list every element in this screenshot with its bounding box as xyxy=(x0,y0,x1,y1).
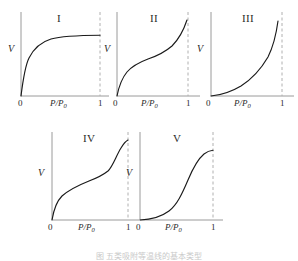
isotherm-curve-III xyxy=(211,21,278,96)
x-axis-label-III: P/P0 xyxy=(234,99,251,108)
x-axis-label-IV-sub: 0 xyxy=(92,226,95,233)
x-axis-label-IV: P/P0 xyxy=(78,223,95,232)
x-axis-label-II: P/P0 xyxy=(141,99,158,108)
x-axis-label-II-sub: 0 xyxy=(155,102,158,109)
panel-label-V: V xyxy=(173,133,181,144)
y-axis-label-IV: V xyxy=(38,168,44,178)
isotherm-curve-IV xyxy=(52,140,128,220)
x-tick-one-III: 1 xyxy=(280,99,285,108)
x-tick-zero-II: 0 xyxy=(113,99,118,108)
x-axis-label-II-main: P/P xyxy=(141,98,155,108)
isotherm-curve-II xyxy=(117,20,187,96)
y-axis-label-III: V xyxy=(197,44,203,54)
x-axis-label-V: P/P0 xyxy=(165,223,182,232)
x-tick-one-I: 1 xyxy=(98,99,103,108)
x-axis-label-I: P/P0 xyxy=(50,99,67,108)
x-tick-one-V: 1 xyxy=(211,223,216,232)
x-axis-label-I-main: P/P xyxy=(50,98,64,108)
isotherm-curve-V xyxy=(140,150,213,220)
y-axis-label-II: V xyxy=(104,44,110,54)
x-axis-label-III-main: P/P xyxy=(234,98,248,108)
x-axis-label-IV-main: P/P xyxy=(78,222,92,232)
x-axis-label-I-sub: 0 xyxy=(64,102,67,109)
x-tick-one-II: 1 xyxy=(186,99,191,108)
x-tick-zero-V: 0 xyxy=(136,223,141,232)
x-axis-label-V-main: P/P xyxy=(165,222,179,232)
x-tick-zero-IV: 0 xyxy=(48,223,53,232)
x-axis-label-V-sub: 0 xyxy=(179,226,182,233)
y-axis-label-V: V xyxy=(126,168,132,178)
figure-caption: 图 五类吸附等温线的基本类型 xyxy=(0,250,298,261)
x-tick-zero-I: 0 xyxy=(18,99,23,108)
x-axis-label-III-sub: 0 xyxy=(248,102,251,109)
isotherm-curve-I xyxy=(21,35,100,96)
panel-label-II: II xyxy=(150,13,158,24)
panel-label-I: I xyxy=(57,13,61,24)
panel-label-III: III xyxy=(242,13,254,24)
y-axis-label-I: V xyxy=(8,44,14,54)
panel-label-IV: IV xyxy=(83,133,95,144)
x-tick-zero-III: 0 xyxy=(206,99,211,108)
